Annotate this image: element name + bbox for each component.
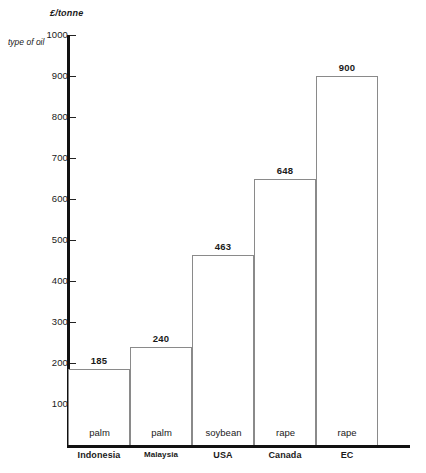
x-axis-line xyxy=(67,445,410,448)
oil-type-cell: palm xyxy=(68,420,130,445)
y-tick-label: 600 xyxy=(52,193,68,204)
category-label: EC xyxy=(316,450,378,460)
bar-chart: £/tonne 1002003004005006007008009001000 … xyxy=(0,0,426,473)
y-tick-label: 200 xyxy=(52,357,68,368)
bar xyxy=(316,76,378,445)
bar-value-label: 648 xyxy=(254,165,316,176)
y-tick-mark xyxy=(70,322,76,323)
y-tick-mark xyxy=(70,158,76,159)
y-tick-label: 500 xyxy=(52,234,68,245)
y-tick-mark xyxy=(70,199,76,200)
y-tick-mark xyxy=(70,281,76,282)
bar-value-label: 463 xyxy=(192,241,254,252)
bar xyxy=(254,179,316,445)
y-tick-mark xyxy=(70,35,76,36)
oil-type-cell: soybean xyxy=(192,420,254,445)
y-tick-label: 700 xyxy=(52,152,68,163)
oil-type-cell: rape xyxy=(254,420,316,445)
y-axis-title: £/tonne xyxy=(50,8,83,18)
y-tick-label: 1000 xyxy=(46,29,68,40)
bar-value-label: 185 xyxy=(68,355,130,366)
bar xyxy=(192,255,254,445)
oil-row-label: type of oil xyxy=(8,37,44,47)
category-label: Canada xyxy=(254,450,316,460)
oil-type-cell: rape xyxy=(316,420,378,445)
oil-type-cell: palm xyxy=(130,420,192,445)
y-tick-label: 300 xyxy=(52,316,68,327)
y-tick-label: 900 xyxy=(52,70,68,81)
category-label: USA xyxy=(192,450,254,460)
y-tick-mark xyxy=(70,117,76,118)
category-label: Indonesia xyxy=(68,450,130,460)
y-tick-mark xyxy=(70,240,76,241)
y-tick-mark xyxy=(70,76,76,77)
bar-value-label: 900 xyxy=(316,62,378,73)
bar-value-label: 240 xyxy=(130,333,192,344)
category-label: Malaysia xyxy=(130,450,192,459)
y-tick-label: 100 xyxy=(52,398,68,409)
y-tick-label: 400 xyxy=(52,275,68,286)
y-tick-label: 800 xyxy=(52,111,68,122)
